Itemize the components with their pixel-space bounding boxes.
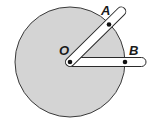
label-b: B xyxy=(129,43,138,58)
disk-rods-diagram: A B O xyxy=(0,0,155,123)
point-a-dot xyxy=(107,22,112,27)
label-o: O xyxy=(59,43,69,58)
label-a: A xyxy=(100,3,110,18)
point-b-dot xyxy=(123,60,128,65)
pivot-dot-o xyxy=(68,60,73,65)
